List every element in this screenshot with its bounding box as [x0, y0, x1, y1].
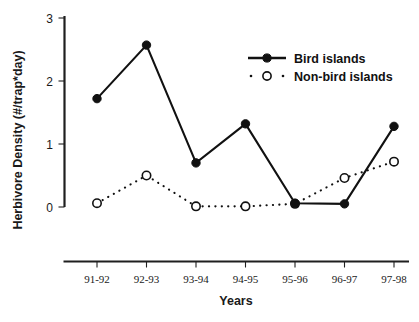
legend-swatch-marker-nonbird	[263, 72, 271, 80]
data-point-non-bird-islands	[340, 174, 348, 182]
data-point-non-bird-islands	[241, 202, 249, 210]
y-tick-label: 1	[46, 138, 53, 152]
data-point-bird-islands	[93, 94, 101, 102]
x-axis-title: Years	[219, 294, 252, 308]
x-tick-label: 92-93	[134, 273, 160, 285]
y-tick-label: 3	[46, 12, 53, 26]
legend-label-non-bird-islands: Non-bird islands	[294, 70, 393, 84]
x-tick-label: 95-96	[282, 273, 308, 285]
x-tick-label: 93-94	[183, 273, 209, 285]
chart-container: 0123 91-9292-9393-9494-9595-9696-9797-98…	[0, 0, 419, 322]
x-tick-label: 94-95	[233, 273, 259, 285]
data-point-bird-islands	[142, 41, 150, 49]
legend-swatch-dot-right-nonbird	[282, 75, 285, 78]
data-point-bird-islands	[340, 200, 348, 208]
data-point-bird-islands	[241, 120, 249, 128]
legend-swatch-marker-bird	[263, 54, 271, 62]
data-point-non-bird-islands	[390, 157, 398, 165]
x-tick-label: 96-97	[332, 273, 358, 285]
line-chart: 0123 91-9292-9393-9494-9595-9696-9797-98…	[0, 0, 419, 322]
legend-label-bird-islands: Bird islands	[294, 52, 366, 66]
y-tick-label: 2	[46, 75, 53, 89]
x-tick-label: 97-98	[381, 273, 407, 285]
data-point-bird-islands	[291, 199, 299, 207]
y-axis-title: Herbivore Density (#/trap*day)	[11, 50, 25, 229]
data-point-bird-islands	[192, 159, 200, 167]
x-tick-label: 91-92	[84, 273, 110, 285]
y-tick-label: 0	[46, 201, 53, 215]
data-point-non-bird-islands	[192, 202, 200, 210]
data-point-bird-islands	[390, 122, 398, 130]
legend-swatch-dot-left-nonbird	[250, 75, 253, 78]
data-point-non-bird-islands	[93, 199, 101, 207]
data-point-non-bird-islands	[142, 171, 150, 179]
